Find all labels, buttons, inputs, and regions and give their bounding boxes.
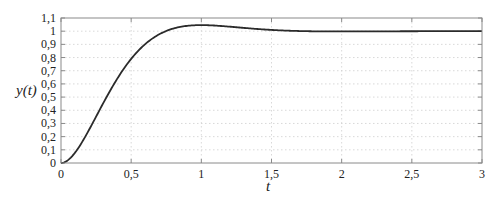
y-tick-label: 0,4 — [41, 103, 56, 117]
y-tick-label: 0,5 — [41, 90, 56, 104]
x-tick-label: 2 — [339, 167, 345, 181]
y-axis-label: y(t) — [14, 82, 37, 99]
y-tick-label: 1 — [50, 24, 56, 38]
x-tick-label: 0,5 — [124, 167, 139, 181]
y-tick-label: 0 — [50, 156, 56, 170]
y-tick-label: 0,6 — [41, 77, 56, 91]
y-tick-label: 0,1 — [41, 143, 56, 157]
step-response-chart: 00,10,20,30,40,50,60,70,80,911,1 00,511,… — [0, 0, 496, 199]
grid — [61, 18, 482, 163]
x-tick-label: 1 — [198, 167, 204, 181]
y-tick-label: 0,7 — [41, 64, 56, 78]
x-tick-label: 2,5 — [404, 167, 419, 181]
y-tick-label: 0,9 — [41, 37, 56, 51]
x-tick-label: 3 — [479, 167, 485, 181]
y-tick-label: 0,3 — [41, 116, 56, 130]
y-tick-label: 0,2 — [41, 130, 56, 144]
y-tick-label: 0,8 — [41, 51, 56, 65]
y-ticks: 00,10,20,30,40,50,60,70,80,911,1 — [41, 11, 482, 170]
x-tick-label: 0 — [58, 167, 64, 181]
y-tick-label: 1,1 — [41, 11, 56, 25]
